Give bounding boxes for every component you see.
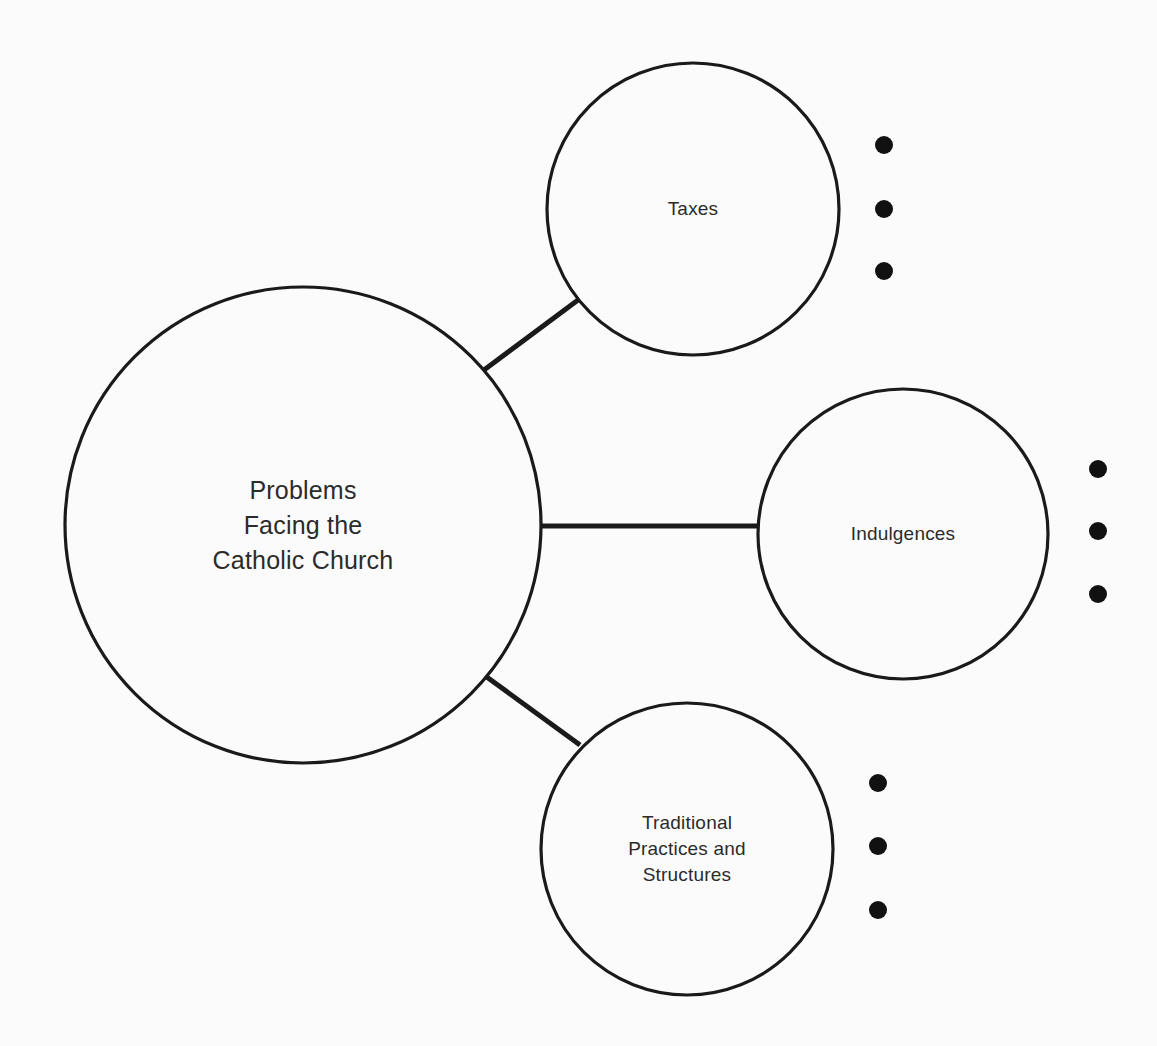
- branch-circle-indulgences[interactable]: [758, 389, 1048, 679]
- bullet-point: [869, 837, 887, 855]
- bullet-point: [875, 136, 893, 154]
- mind-map-graphics: [0, 0, 1157, 1046]
- bullet-point: [875, 262, 893, 280]
- bullet-point: [1089, 460, 1107, 478]
- branch-circle-taxes[interactable]: [547, 63, 839, 355]
- bullet-group-indulgences: [1089, 460, 1107, 603]
- bullet-group-taxes: [875, 136, 893, 280]
- bullet-point: [869, 901, 887, 919]
- bullet-group-traditional-practices: [869, 774, 887, 919]
- connector-central-to-traditional-practices: [484, 675, 580, 745]
- bullet-point: [875, 200, 893, 218]
- mind-map-canvas: Problems Facing the Catholic Church Taxe…: [0, 0, 1157, 1046]
- bullet-point: [1089, 522, 1107, 540]
- central-node-circle[interactable]: [65, 287, 541, 763]
- branch-circle-traditional-practices[interactable]: [541, 703, 833, 995]
- connector-central-to-taxes: [484, 300, 578, 370]
- bullet-point: [869, 774, 887, 792]
- bullet-point: [1089, 585, 1107, 603]
